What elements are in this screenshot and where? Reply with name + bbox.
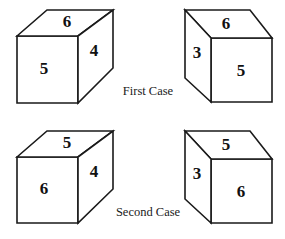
- box-top-number: 5: [63, 133, 72, 152]
- second-case-left-box: 6 5 4: [17, 131, 113, 223]
- first-case-left-box: 5 6 4: [17, 10, 113, 103]
- box-side-number: 4: [90, 162, 99, 181]
- box-front-number: 5: [40, 59, 49, 78]
- box-front-number: 6: [237, 182, 246, 201]
- box-front-number: 5: [237, 61, 246, 80]
- box-side-number: 3: [193, 164, 202, 183]
- second-case-right-box: 6 5 3: [185, 131, 272, 223]
- box-top-number: 6: [222, 14, 231, 33]
- box-top-number: 6: [63, 12, 72, 31]
- box-side-number: 3: [193, 43, 202, 62]
- first-case-right-box: 5 6 3: [185, 10, 272, 102]
- box-side-number: 4: [90, 41, 99, 60]
- dice-cases-figure: 5 6 4 5 6 3 First Case 6 5: [0, 0, 285, 239]
- first-case-label: First Case: [123, 84, 174, 98]
- box-front-number: 6: [40, 179, 49, 198]
- second-case-label: Second Case: [116, 205, 181, 219]
- box-top-number: 5: [222, 135, 231, 154]
- figure-canvas: 5 6 4 5 6 3 First Case 6 5: [0, 0, 285, 239]
